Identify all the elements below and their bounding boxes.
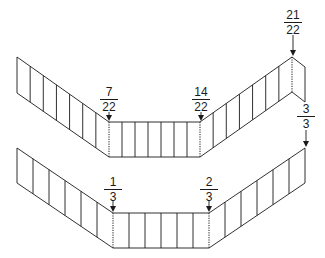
strip-bottom-edge — [200, 92, 292, 157]
numerator: 14 — [189, 86, 213, 98]
denominator: 3 — [294, 118, 318, 130]
denominator: 22 — [281, 24, 305, 36]
folded-strips-diagram — [0, 0, 325, 258]
strip-top-edge — [200, 57, 292, 122]
strip-top-edge — [17, 57, 109, 122]
label-7-22: 722 — [97, 86, 121, 113]
label-21-22: 2122 — [281, 9, 305, 36]
strip-top-edge — [292, 57, 305, 67]
top-strip-22-parts — [17, 57, 305, 157]
strip-bottom-edge — [292, 92, 305, 102]
label-3-3: 33 — [294, 103, 318, 130]
denominator: 22 — [189, 101, 213, 113]
strip-bottom-edge — [17, 93, 109, 157]
label-2-3: 23 — [197, 176, 221, 203]
bottom-strip-3-parts — [17, 148, 305, 248]
denominator: 3 — [197, 191, 221, 203]
arrow-down-icon — [290, 50, 296, 56]
label-1-3: 13 — [101, 176, 125, 203]
label-14-22: 1422 — [189, 86, 213, 113]
denominator: 3 — [101, 191, 125, 203]
numerator: 1 — [101, 176, 125, 188]
numerator: 3 — [294, 103, 318, 115]
arrow-down-icon — [303, 141, 309, 147]
numerator: 7 — [97, 86, 121, 98]
numerator: 21 — [281, 9, 305, 21]
numerator: 2 — [197, 176, 221, 188]
denominator: 22 — [97, 101, 121, 113]
